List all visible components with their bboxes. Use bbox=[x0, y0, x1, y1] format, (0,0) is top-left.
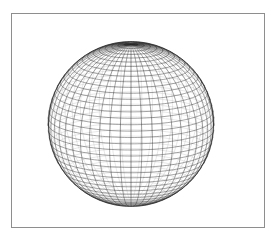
mesh-segment bbox=[49, 44, 131, 163]
mesh-segment bbox=[70, 179, 193, 191]
mesh-segment bbox=[131, 44, 211, 184]
mesh-segment-hidden bbox=[69, 57, 192, 69]
sphere-viewer-root bbox=[0, 0, 278, 245]
mesh-segment bbox=[120, 44, 131, 206]
mesh-segment bbox=[51, 44, 131, 184]
wireframe-sphere-figure bbox=[12, 14, 266, 229]
mesh-segment bbox=[131, 44, 213, 163]
mesh-segment-hidden bbox=[49, 86, 131, 204]
mesh-segment-hidden bbox=[131, 86, 213, 204]
plot-frame bbox=[11, 13, 265, 228]
mesh-segment bbox=[131, 44, 142, 206]
